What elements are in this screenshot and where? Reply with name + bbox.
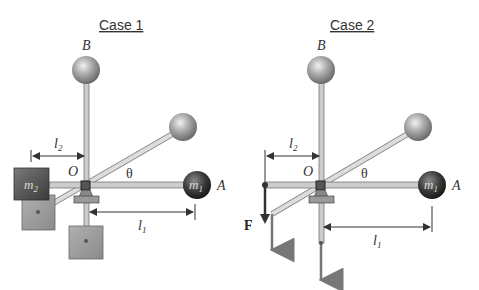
label-B: B [317,38,326,53]
horizontal-rod [49,182,189,188]
label-l1: l1 [138,218,146,235]
case1-title: Case 1 [99,17,144,33]
case2-group: Case 2 B m1 A F O θ l2 l1 [244,17,461,280]
lever-diagram: Case 1 B m2 m1 A O θ l2 l1 [0,0,479,290]
label-A: A [216,178,226,193]
diagram-canvas: Case 1 B m2 m1 A O θ l2 l1 [0,0,479,290]
label-O: O [303,164,313,179]
pivot-O [316,181,325,190]
vertical-rod [319,76,324,186]
label-F: F [244,218,253,233]
label-theta: θ [126,166,133,181]
label-B: B [82,38,91,53]
ball-B [72,56,100,84]
ball-B [307,56,335,84]
vertical-rod [84,76,89,186]
label-l2: l2 [289,136,298,153]
horizontal-rod [265,182,425,188]
pivot-base [309,196,334,203]
ball-diagonal [169,113,197,141]
label-l2: l2 [54,136,63,153]
pivot-O [81,181,90,190]
ball-diagonal [404,113,432,141]
pivot-base [74,196,99,203]
label-O: O [68,164,78,179]
case2-title: Case 2 [330,17,375,33]
case1-group: Case 1 B m2 m1 A O θ l2 l1 [14,17,226,259]
label-l1: l1 [373,233,381,250]
label-theta: θ [361,166,368,181]
label-A: A [451,178,461,193]
